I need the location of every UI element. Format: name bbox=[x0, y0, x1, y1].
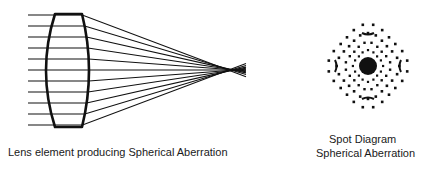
spot-point bbox=[375, 34, 378, 37]
spot-point bbox=[372, 51, 374, 53]
lens-caption: Lens element producing Spherical Aberrat… bbox=[8, 146, 228, 158]
ray-line bbox=[28, 15, 246, 77]
spot-point bbox=[328, 59, 331, 62]
spot-point bbox=[367, 81, 369, 83]
spot-point bbox=[382, 65, 384, 67]
spot-point bbox=[381, 29, 384, 32]
spot-point bbox=[346, 93, 349, 96]
spot-diagram-subtitle: Spherical Aberration bbox=[316, 147, 415, 159]
spot-point bbox=[376, 55, 378, 57]
spot-point bbox=[376, 84, 378, 86]
spot-point bbox=[401, 50, 404, 53]
spot-point bbox=[372, 24, 375, 27]
spot-point bbox=[339, 43, 342, 46]
spot-point bbox=[338, 73, 341, 76]
spot-point bbox=[345, 61, 347, 63]
spot-core bbox=[359, 57, 377, 75]
spot-point bbox=[396, 73, 399, 76]
spot-point bbox=[362, 51, 364, 53]
spot-point bbox=[381, 79, 383, 81]
spot-point bbox=[353, 39, 356, 42]
spot-point bbox=[370, 88, 372, 90]
spot-point bbox=[358, 75, 360, 77]
spot-point bbox=[353, 51, 355, 53]
spot-point bbox=[343, 50, 346, 53]
spot-point bbox=[396, 57, 399, 60]
spot-point bbox=[381, 51, 383, 53]
spot-diagram-title: Spot Diagram bbox=[329, 133, 396, 145]
spot-point bbox=[367, 49, 369, 51]
spot-diagram bbox=[328, 24, 409, 109]
spot-point bbox=[406, 70, 409, 73]
spot-point bbox=[348, 85, 351, 88]
spot-point bbox=[401, 80, 404, 83]
spot-point bbox=[349, 75, 351, 77]
spot-arc bbox=[400, 60, 402, 72]
spot-point bbox=[381, 39, 384, 42]
spot-arc bbox=[335, 60, 337, 72]
spot-point bbox=[388, 36, 391, 39]
spot-point bbox=[348, 45, 351, 48]
light-rays bbox=[28, 15, 246, 125]
spot-point bbox=[358, 46, 360, 48]
spot-point bbox=[353, 101, 356, 104]
spot-point bbox=[339, 87, 342, 90]
spot-point bbox=[354, 71, 356, 73]
spot-point bbox=[345, 69, 347, 71]
spot-point bbox=[370, 42, 372, 44]
spot-point bbox=[354, 59, 356, 61]
spot-point bbox=[338, 57, 341, 60]
spot-point bbox=[386, 85, 389, 88]
spot-point bbox=[333, 50, 336, 53]
spot-point bbox=[376, 46, 378, 48]
spot-point bbox=[394, 87, 397, 90]
spot-point bbox=[352, 65, 354, 67]
spot-point bbox=[389, 61, 391, 63]
spot-point bbox=[375, 95, 378, 98]
spot-point bbox=[358, 84, 360, 86]
spot-point bbox=[380, 59, 382, 61]
spot-point bbox=[372, 106, 375, 109]
spot-point bbox=[376, 75, 378, 77]
spot-point bbox=[362, 24, 365, 27]
spot-point bbox=[381, 90, 384, 93]
spot-point bbox=[359, 95, 362, 98]
spot-point bbox=[406, 59, 409, 62]
spot-point bbox=[389, 69, 391, 71]
spot-point bbox=[394, 43, 397, 46]
spot-point bbox=[391, 79, 394, 82]
spot-point bbox=[353, 90, 356, 93]
spot-point bbox=[362, 106, 365, 109]
spot-point bbox=[388, 93, 391, 96]
spot-point bbox=[386, 45, 389, 48]
spot-point bbox=[333, 80, 336, 83]
spot-point bbox=[381, 101, 384, 104]
spot-point bbox=[346, 36, 349, 39]
spot-point bbox=[353, 79, 355, 81]
spot-point bbox=[358, 55, 360, 57]
ray-line bbox=[28, 63, 246, 125]
spot-point bbox=[328, 70, 331, 73]
spot-point bbox=[359, 34, 362, 37]
spot-point bbox=[353, 29, 356, 32]
spot-point bbox=[363, 88, 365, 90]
spot-point bbox=[380, 71, 382, 73]
spot-point bbox=[372, 79, 374, 81]
spot-point bbox=[349, 55, 351, 57]
spot-point bbox=[343, 79, 346, 82]
spot-point bbox=[363, 42, 365, 44]
spot-point bbox=[362, 79, 364, 81]
spot-point bbox=[385, 55, 387, 57]
spot-point bbox=[385, 75, 387, 77]
spot-point bbox=[391, 50, 394, 53]
